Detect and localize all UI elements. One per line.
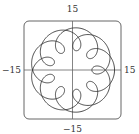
y-min-label: −15	[63, 124, 82, 134]
parametric-plot: 15 −15 −15 15	[0, 0, 139, 134]
y-max-label: 15	[67, 4, 79, 14]
x-min-label: −15	[2, 65, 21, 75]
x-max-label: 15	[124, 65, 136, 75]
